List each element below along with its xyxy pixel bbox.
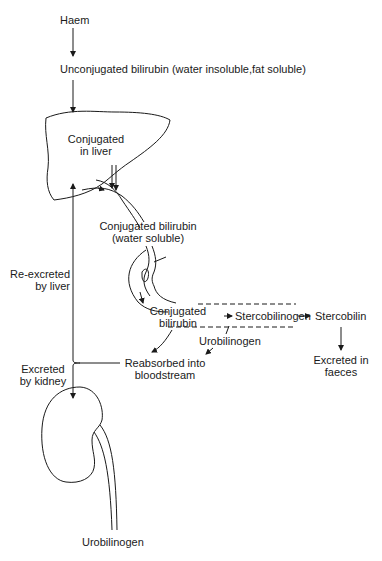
label-excreted-by-kidney: Excreted by kidney [16,363,70,387]
label-haem: Haem [60,14,89,26]
label-excreted-in-faeces: Excreted in faeces [311,354,371,378]
arrow-urobilinogen-to-reabsorbed [206,348,213,354]
label-urobilinogen-gut: Urobilinogen [199,335,261,347]
kidney-shape [42,387,103,482]
bile-duct-to-gut-inner [152,246,156,286]
intestine-outer-wall [129,250,168,312]
label-conjugated-bilirubin-gut: Conjugated bilirubin [148,305,208,329]
label-re-excreted-by-liver: Re-excreted by liver [4,268,70,292]
label-stercobilin: Stercobilin [315,310,366,322]
intestine-inner-wall [154,286,176,303]
label-unconjugated-bilirubin: Unconjugated bilirubin (water insoluble,… [60,63,306,75]
arrow-to-reabsorbed [152,330,172,352]
label-urobilinogen-urine: Urobilinogen [82,536,144,548]
label-conjugated-water-soluble: Conjugated bilirubin (water soluble) [88,220,208,244]
bile-duct-to-gut [144,246,150,296]
trunk-junction [73,360,80,366]
hepatic-duct-left [82,188,144,222]
label-stercobilinogen: Stercobilinogen [235,310,311,322]
arrow-into-gut [140,292,143,303]
duct-loop [142,269,149,282]
label-conjugated-in-liver: Conjugated in liver [56,133,136,157]
label-reabsorbed-into-bloodstream: Reabsorbed into bloodstream [122,357,208,381]
